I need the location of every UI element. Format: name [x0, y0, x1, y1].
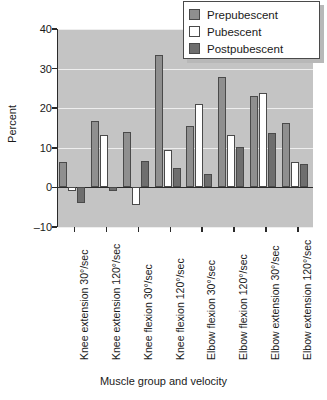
- bar: [155, 55, 163, 188]
- bar: [250, 96, 258, 187]
- x-tick-label: Knee extension 120°/sec: [110, 244, 122, 360]
- bar: [204, 174, 212, 188]
- x-tick-label: Elbow flexion 30°/sec: [205, 260, 217, 360]
- bar: [291, 162, 299, 188]
- bar: [195, 104, 203, 188]
- bar: [218, 77, 226, 188]
- bar: [164, 150, 172, 188]
- bar: [141, 161, 149, 187]
- legend: Prepubescent Pubescent Postpubescent: [183, 1, 320, 59]
- x-axis-labels: Knee extension 30°/secKnee extension 120…: [58, 232, 313, 362]
- y-tick-label: 30: [40, 63, 52, 75]
- bar: [236, 147, 244, 187]
- bar: [186, 126, 194, 187]
- legend-label-postpubescent: Postpubescent: [207, 43, 283, 55]
- bar: [59, 162, 67, 187]
- bar: [282, 123, 290, 188]
- x-tick-label: Knee flexion 120°/sec: [174, 258, 186, 360]
- legend-swatch-postpubescent: [189, 43, 200, 54]
- bar: [100, 135, 108, 187]
- legend-label-pubescent: Pubescent: [207, 26, 261, 38]
- legend-item: Prepubescent: [189, 6, 319, 23]
- x-tick-label: Elbow extension 120°/sec: [301, 240, 313, 360]
- legend-swatch-pubescent: [189, 26, 200, 37]
- bar: [77, 187, 85, 203]
- y-axis: 403020100–10: [0, 0, 52, 400]
- y-tick-label: 40: [40, 23, 52, 35]
- bar: [109, 187, 117, 191]
- legend-item: Pubescent: [189, 23, 319, 40]
- bar: [123, 132, 131, 187]
- bar: [268, 133, 276, 187]
- bar: [259, 93, 267, 188]
- legend-swatch-prepubescent: [189, 9, 200, 20]
- y-axis-title: Percent: [6, 105, 18, 143]
- bar: [173, 168, 181, 188]
- y-tick-label: –10: [34, 221, 52, 233]
- x-tick-label: Elbow flexion 120°/sec: [237, 254, 249, 360]
- bar-chart: 403020100–10 Percent Knee extension 30°/…: [0, 0, 327, 400]
- bar: [227, 135, 235, 188]
- gridline: [58, 227, 313, 228]
- x-tick-label: Elbow extension 30°/sec: [269, 245, 281, 360]
- bar: [300, 164, 308, 188]
- bar: [132, 187, 140, 205]
- y-tick-label: 20: [40, 102, 52, 114]
- y-tick-label: 10: [40, 142, 52, 154]
- bar: [68, 187, 76, 191]
- bar: [91, 121, 99, 188]
- x-tick-label: Knee extension 30°/sec: [78, 250, 90, 360]
- x-axis-title: Muscle group and velocity: [0, 375, 327, 387]
- legend-label-prepubescent: Prepubescent: [207, 9, 278, 21]
- legend-item: Postpubescent: [189, 40, 319, 57]
- x-tick-label: Knee flexion 30°/sec: [142, 264, 154, 360]
